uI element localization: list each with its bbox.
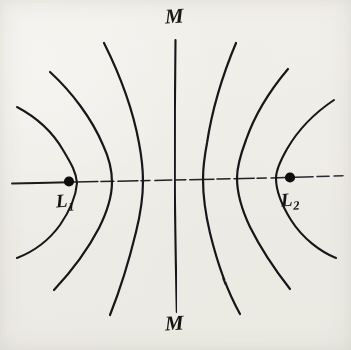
source-label-l1-subscript: 1 [68, 199, 75, 213]
fringe-curve-left-inner [104, 43, 143, 315]
axis-label-m-top: M [164, 6, 184, 28]
horizontal-axis-line-dashed-middle [74, 178, 286, 182]
source-label-l2-subscript: 2 [293, 198, 300, 212]
horizontal-axis-line-left-solid [12, 182, 69, 183]
source-label-l1: L1 [55, 190, 75, 214]
axis-label-m-bottom: M [164, 313, 184, 335]
source-label-l2-letter: L [280, 189, 293, 211]
source-label-l1-letter: L [55, 190, 68, 212]
source-point-l2 [285, 172, 295, 182]
horizontal-axis-line-right-dashed [295, 176, 344, 178]
source-point-l1 [64, 176, 74, 186]
fringe-curve-right-outer [276, 100, 336, 258]
fringe-diagram-svg [0, 0, 351, 350]
figure-canvas: M M L1 L2 [0, 0, 351, 350]
source-label-l2: L2 [280, 189, 300, 213]
central-axis-line-m [175, 40, 177, 312]
